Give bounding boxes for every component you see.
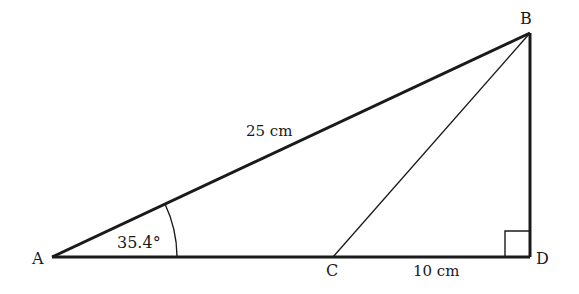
- point-label-d: D: [536, 249, 549, 268]
- right-angle-marker: [505, 231, 530, 257]
- point-label-a: A: [31, 249, 44, 268]
- cd-length-label: 10 cm: [413, 262, 459, 280]
- triangle-diagram: A B C D 25 cm 10 cm 35.4°: [0, 0, 579, 294]
- hypotenuse-length-label: 25 cm: [246, 122, 292, 140]
- point-label-b: B: [520, 9, 532, 28]
- segment-ab: [52, 33, 530, 257]
- angle-arc-a: [165, 204, 177, 257]
- point-label-c: C: [326, 261, 338, 280]
- angle-a-label: 35.4°: [117, 233, 161, 252]
- segment-bc: [333, 33, 530, 257]
